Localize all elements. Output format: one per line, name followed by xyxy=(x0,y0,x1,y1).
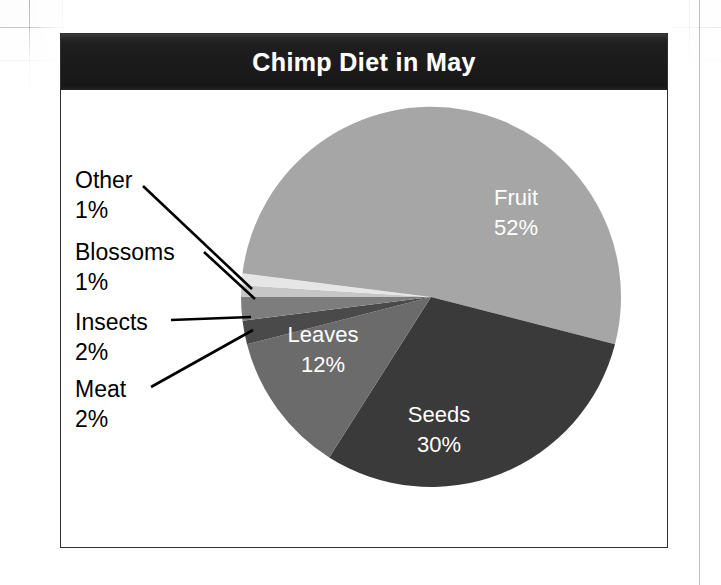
chart-title: Chimp Diet in May xyxy=(252,48,476,77)
chart-title-bar: Chimp Diet in May xyxy=(61,34,667,90)
pie-callout-labels: Other 1% Blossoms 1% Insects 2% Meat 2% xyxy=(75,167,175,432)
pie-label-seeds-name: Seeds xyxy=(408,402,470,427)
callout-other-percent: 1% xyxy=(75,197,108,223)
callout-meat-name: Meat xyxy=(75,376,127,402)
page-fold-line xyxy=(699,0,700,585)
callout-other-name: Other xyxy=(75,167,133,193)
pie-label-fruit-name: Fruit xyxy=(494,185,538,210)
callout-blossoms-percent: 1% xyxy=(75,269,108,295)
pie-label-fruit-percent: 52% xyxy=(494,215,538,240)
pie-label-leaves-percent: 12% xyxy=(301,352,345,377)
pie-label-leaves-name: Leaves xyxy=(288,322,359,347)
pie-leader-lines xyxy=(143,186,255,387)
callout-insects-name: Insects xyxy=(75,309,148,335)
callout-insects-percent: 2% xyxy=(75,339,108,365)
pie-slices xyxy=(241,107,621,487)
callout-meat-percent: 2% xyxy=(75,406,108,432)
leader-line-insects xyxy=(171,317,251,320)
leader-line-meat xyxy=(151,330,253,387)
chart-container: Chimp Diet in May Fruit 52% Leaves 12% S… xyxy=(60,33,668,548)
leader-line-other xyxy=(143,186,252,289)
pie-chart-svg: Fruit 52% Leaves 12% Seeds 30% Other 1% … xyxy=(61,90,666,547)
pie-chart-plot-area: Fruit 52% Leaves 12% Seeds 30% Other 1% … xyxy=(61,90,667,547)
pie-label-seeds-percent: 30% xyxy=(417,432,461,457)
callout-blossoms-name: Blossoms xyxy=(75,239,175,265)
